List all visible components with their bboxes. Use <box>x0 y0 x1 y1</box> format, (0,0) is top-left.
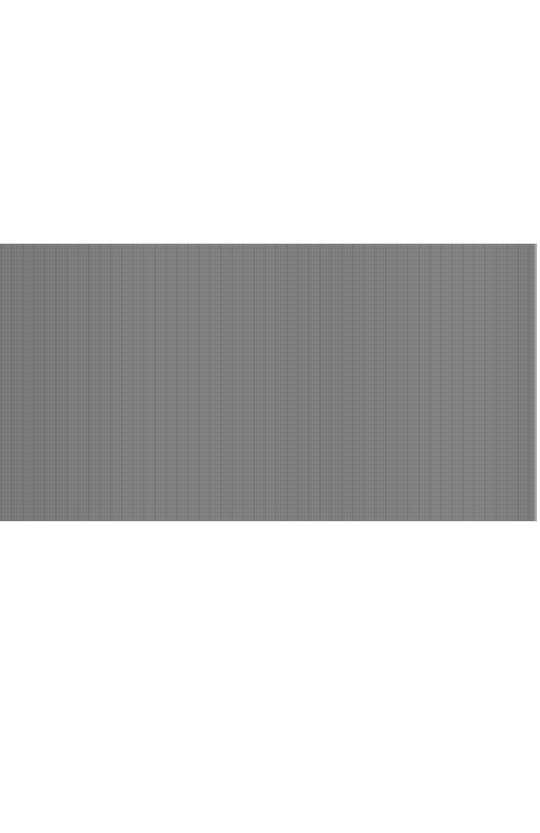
gray-texture-image <box>0 244 537 521</box>
page <box>0 0 540 833</box>
image-edge <box>534 244 537 521</box>
